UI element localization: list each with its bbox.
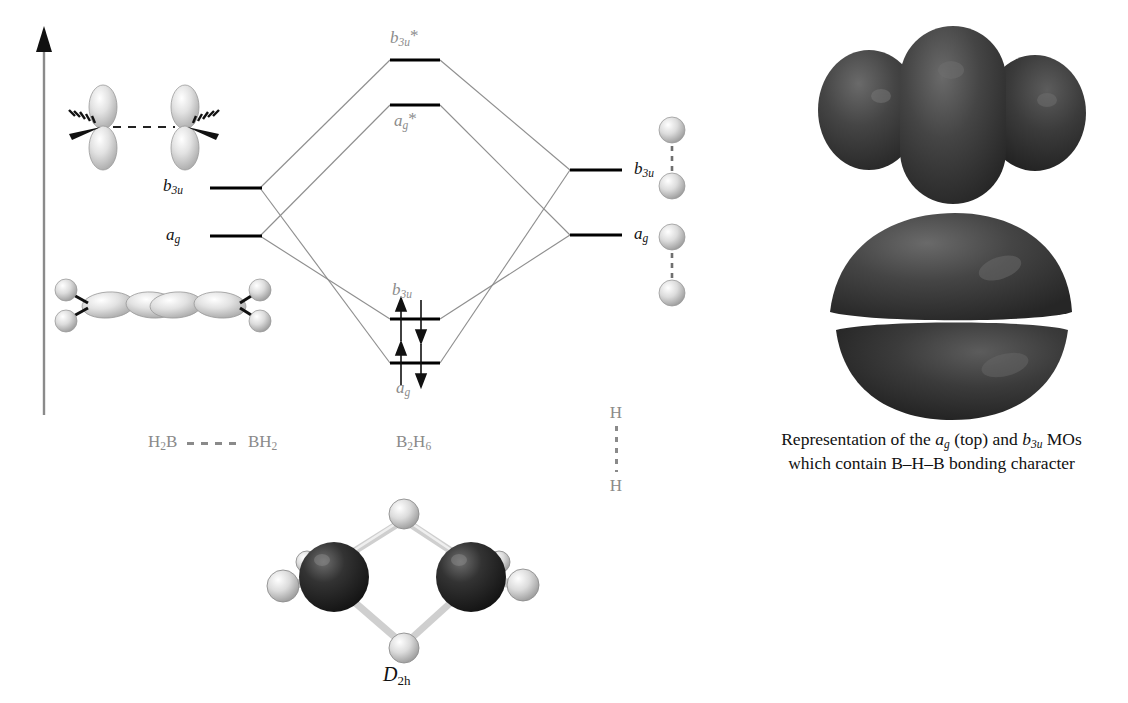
label-mo-b3u-star: b3u*	[390, 27, 419, 49]
caption-h2b-bh2: H2B BH2	[148, 432, 277, 453]
label-mo-ag-star: ag*	[394, 110, 417, 132]
label-mo-ag: ag	[396, 379, 410, 399]
point-group-label: D2h	[383, 663, 410, 689]
caption-h-top: H	[603, 404, 629, 421]
caption-line1-ag: a	[935, 429, 944, 449]
fragment-orbital-b3u-sketch	[69, 85, 219, 170]
energy-axis-arrow	[36, 26, 52, 415]
label-left-b3u: b3u	[163, 177, 183, 197]
level-lines	[210, 60, 622, 363]
caption-h-h: H H	[603, 404, 629, 494]
dashed-bond-h2b-bh2	[187, 442, 239, 445]
label-right-ag: ag	[634, 225, 648, 245]
caption-line1-b-sub: 3u	[1031, 438, 1043, 450]
caption-b2h6: B2H6	[396, 432, 431, 453]
caption-line1-post: MOs	[1042, 429, 1081, 449]
fragment-orbital-ag-sketch	[55, 279, 271, 332]
label-mo-b3u: b3u	[392, 281, 412, 301]
label-right-b3u: b3u	[634, 160, 654, 180]
caption-line1-pre: Representation of the	[781, 429, 935, 449]
mo-render-ag	[818, 26, 1086, 204]
dashed-bond-h-h	[615, 426, 618, 472]
mo-representation-caption: Representation of the ag (top) and b3u M…	[735, 428, 1128, 475]
b2h6-molecule-model	[267, 499, 539, 663]
point-group-sub: 2h	[397, 673, 410, 688]
hydrogen-fragment-spheres	[659, 117, 685, 306]
label-left-ag: ag	[166, 226, 180, 246]
caption-line1-b: b	[1022, 429, 1031, 449]
point-group-letter: D	[383, 663, 397, 685]
caption-line1-mid: (top) and	[950, 429, 1022, 449]
diagram-canvas	[0, 0, 1128, 703]
mo-render-b3u	[830, 213, 1072, 420]
caption-h-bottom: H	[603, 477, 629, 494]
caption-line2: which contain B–H–B bonding character	[735, 452, 1128, 475]
